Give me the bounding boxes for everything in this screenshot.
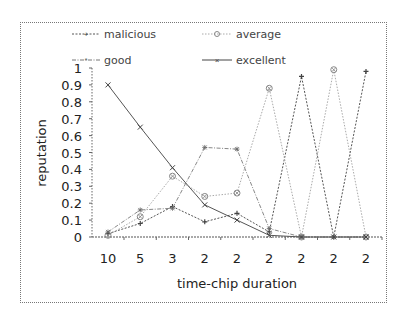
x-tick-label: 2 <box>265 251 273 266</box>
data-point <box>203 194 207 198</box>
data-point <box>235 218 240 223</box>
y-tick-label: 0 <box>74 230 82 245</box>
y-tick-label: 0.7 <box>61 112 82 127</box>
y-tick-label: 1 <box>74 61 82 76</box>
legend-item-malicious: + malicious <box>72 28 156 41</box>
x-tick-label: 2 <box>297 251 305 266</box>
x-tick-label: 5 <box>136 251 144 266</box>
legend-item-average: average <box>202 28 281 41</box>
plus-marker-icon: + <box>84 30 89 39</box>
legend-label-malicious: malicious <box>104 28 156 41</box>
data-point <box>138 125 143 130</box>
data-point <box>235 147 240 152</box>
data-point <box>202 202 207 207</box>
legend-label-good: good <box>104 54 131 67</box>
x-tick-label: 2 <box>233 251 241 266</box>
data-point <box>138 207 143 212</box>
x-tick-label: 10 <box>100 251 117 266</box>
data-point <box>171 174 175 178</box>
data-point <box>299 74 304 79</box>
data-point <box>202 219 207 224</box>
star-marker-icon: * <box>84 56 87 65</box>
y-tick-label: 0.4 <box>61 162 82 177</box>
data-point <box>170 165 175 170</box>
y-tick-label: 0.3 <box>61 179 82 194</box>
data-point <box>106 82 111 87</box>
data-point <box>267 226 272 231</box>
data-point <box>235 211 240 216</box>
line-chart: + malicious average * good × excellent 0… <box>0 0 409 323</box>
y-tick-label: 0.2 <box>61 196 82 211</box>
y-tick-label: 0.1 <box>61 213 82 228</box>
x-marker-icon: × <box>215 56 220 65</box>
y-tick-label: 0.8 <box>61 95 82 110</box>
y-tick-label: 0.6 <box>61 129 82 144</box>
legend-item-excellent: × excellent <box>202 54 287 67</box>
data-point <box>138 215 142 219</box>
x-tick-label: 2 <box>330 251 338 266</box>
legend-label-average: average <box>236 28 281 41</box>
y-tick-label: 0.9 <box>61 78 82 93</box>
data-point <box>106 229 111 234</box>
data-point <box>170 206 175 211</box>
y-tick-label: 0.5 <box>61 146 82 161</box>
legend: + malicious average * good × excellent <box>72 28 287 67</box>
data-point <box>364 69 369 74</box>
series-malicious <box>106 69 369 240</box>
data-point <box>235 191 239 195</box>
data-point <box>202 145 207 150</box>
x-axis-label: time-chip duration <box>177 276 297 291</box>
y-axis-label: reputation <box>34 119 49 187</box>
series-group <box>105 67 369 240</box>
legend-label-excellent: excellent <box>236 54 287 67</box>
x-tick-label: 2 <box>362 251 370 266</box>
data-point <box>332 68 336 72</box>
data-point <box>138 221 143 226</box>
x-tick-label: 2 <box>201 251 209 266</box>
x-tick-label: 3 <box>168 251 176 266</box>
